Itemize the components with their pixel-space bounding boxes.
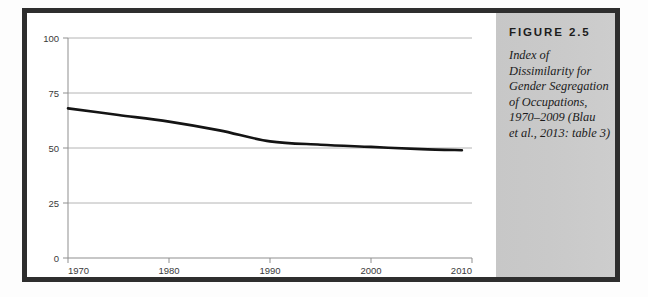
- chart-gridlines: [68, 38, 472, 203]
- caption-line-2: Dissimilarity for: [509, 64, 606, 80]
- caption-line-1: Index of: [509, 48, 606, 64]
- caption-line-4: of Occupations,: [509, 95, 606, 111]
- series-line-index-of-dissimilarity: [68, 108, 462, 150]
- figure-frame: 100 75 50 25 0 1970 1980 1990 2000 2010: [22, 8, 620, 282]
- x-tick-label-1970: 1970: [68, 265, 89, 276]
- x-tickmarks: [68, 258, 472, 263]
- chart-plot-area: 100 75 50 25 0 1970 1980 1990 2000 2010: [27, 13, 496, 277]
- figure-caption-panel: FIGURE 2.5 Index of Dissimilarity for Ge…: [496, 13, 615, 277]
- x-tick-label-2010: 2010: [451, 265, 472, 276]
- y-tick-label-25: 25: [48, 198, 59, 209]
- caption-line-3: Gender Segregation: [509, 79, 606, 95]
- y-tick-label-75: 75: [48, 88, 59, 99]
- figure-number-label: FIGURE 2.5: [509, 26, 606, 38]
- caption-line-5: 1970–2009 (Blau: [509, 110, 606, 126]
- x-tick-label-2000: 2000: [360, 265, 381, 276]
- y-tick-label-100: 100: [43, 33, 59, 44]
- figure-root: 100 75 50 25 0 1970 1980 1990 2000 2010: [0, 0, 648, 297]
- y-tick-label-50: 50: [48, 143, 59, 154]
- line-chart: 100 75 50 25 0 1970 1980 1990 2000 2010: [27, 13, 496, 277]
- caption-line-6: et al., 2013: table 3): [509, 126, 606, 142]
- figure-caption-text: Index of Dissimilarity for Gender Segreg…: [509, 48, 606, 142]
- x-tick-label-1980: 1980: [158, 265, 179, 276]
- y-tick-label-0: 0: [54, 253, 59, 264]
- y-tickmarks: [63, 38, 68, 258]
- figure-inner: 100 75 50 25 0 1970 1980 1990 2000 2010: [27, 13, 615, 277]
- x-tick-label-1990: 1990: [259, 265, 280, 276]
